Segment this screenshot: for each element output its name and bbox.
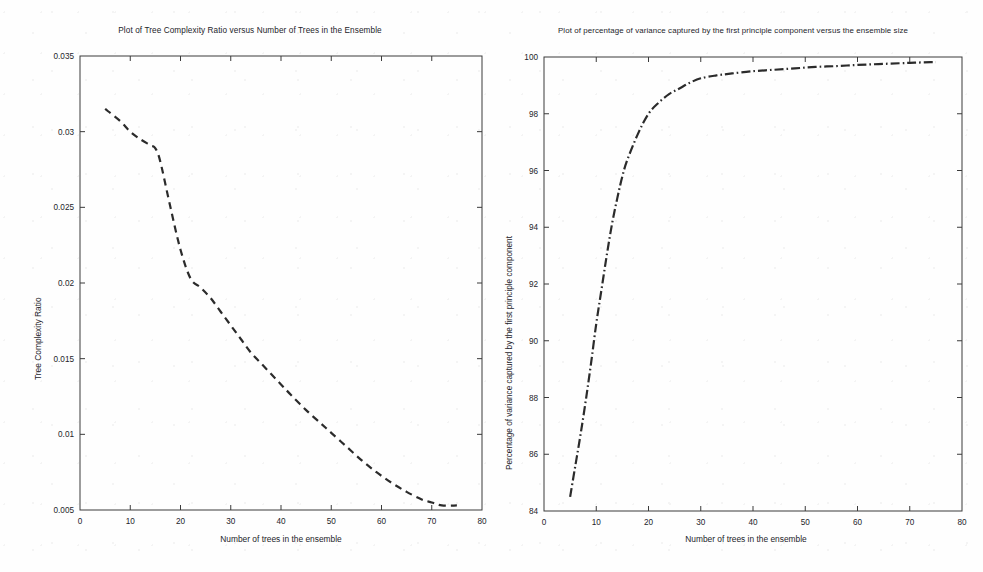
x-tick-label: 60 xyxy=(853,518,863,527)
left-y-axis-label: Tree Complexity Ratio xyxy=(33,297,43,380)
right-y-axis-label: Percentage of variance captured by the f… xyxy=(505,236,514,470)
y-tick-label: 98 xyxy=(529,110,539,119)
y-tick-label: 0.025 xyxy=(54,203,75,212)
data-series-curve xyxy=(105,109,457,506)
data-series-curve xyxy=(570,62,936,497)
x-tick-label: 30 xyxy=(226,517,236,526)
x-tick-label: 40 xyxy=(276,517,286,526)
left-x-axis-label: Number of trees in the ensemble xyxy=(80,534,482,544)
plot-frame xyxy=(80,56,482,510)
x-tick-label: 20 xyxy=(176,517,186,526)
y-tick-label: 88 xyxy=(529,394,539,403)
x-tick-label: 10 xyxy=(126,517,136,526)
y-tick-label: 86 xyxy=(529,450,539,459)
x-tick-label: 70 xyxy=(905,518,915,527)
right-x-axis-label: Number of trees in the ensemble xyxy=(544,534,948,544)
y-tick-label: 94 xyxy=(529,223,539,232)
y-tick-label: 0.035 xyxy=(54,52,75,61)
y-tick-label: 100 xyxy=(524,53,538,62)
right-plot-area: 010203040506070808486889092949698100 xyxy=(483,0,983,572)
x-tick-label: 50 xyxy=(801,518,811,527)
left-plot-area: 010203040506070800.0050.010.0150.020.025… xyxy=(0,0,500,572)
right-figure: Plot of percentage of variance captured … xyxy=(483,0,983,572)
x-tick-label: 0 xyxy=(542,518,547,527)
y-tick-label: 0.02 xyxy=(58,279,74,288)
y-tick-label: 0.005 xyxy=(54,506,75,515)
y-tick-label: 96 xyxy=(529,167,539,176)
x-tick-label: 60 xyxy=(377,517,387,526)
y-tick-label: 0.01 xyxy=(58,430,74,439)
x-tick-label: 30 xyxy=(696,518,706,527)
y-tick-label: 92 xyxy=(529,280,539,289)
x-tick-label: 50 xyxy=(327,517,337,526)
x-tick-label: 20 xyxy=(644,518,654,527)
y-tick-label: 0.015 xyxy=(54,355,75,364)
left-figure: Plot of Tree Complexity Ratio versus Num… xyxy=(0,0,500,572)
x-tick-label: 0 xyxy=(78,517,83,526)
x-tick-label: 80 xyxy=(957,518,967,527)
x-tick-label: 40 xyxy=(748,518,758,527)
x-tick-label: 10 xyxy=(592,518,602,527)
x-tick-label: 70 xyxy=(427,517,437,526)
y-tick-label: 90 xyxy=(529,337,539,346)
figure-page: Plot of Tree Complexity Ratio versus Num… xyxy=(0,0,983,572)
plot-frame xyxy=(544,57,962,511)
y-tick-label: 84 xyxy=(529,507,539,516)
y-tick-label: 0.03 xyxy=(58,128,74,137)
